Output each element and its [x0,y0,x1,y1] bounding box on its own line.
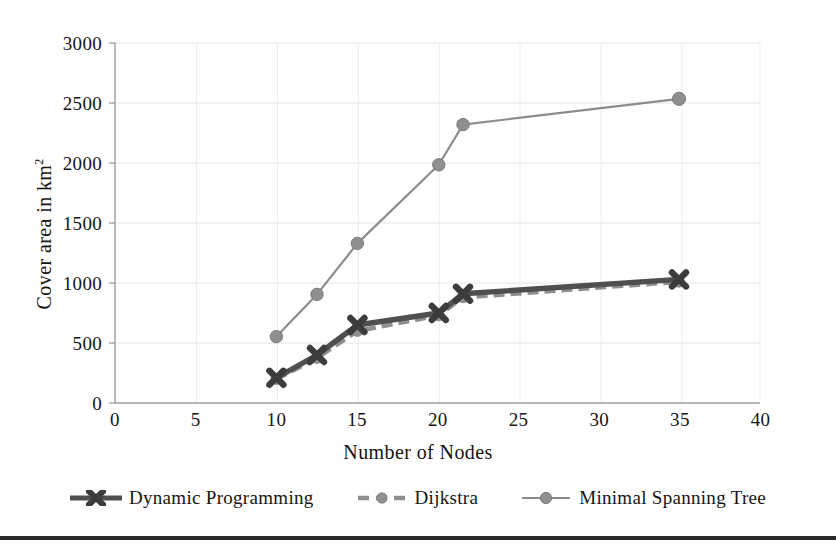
x-tick-label: 40 [731,410,791,429]
x-tick-label: 15 [327,410,387,429]
legend-label: Dijkstra [415,487,479,509]
x-axis-title: Number of Nodes [0,441,836,464]
chart-plot-area [0,0,836,553]
legend-label: Dynamic Programming [129,487,314,509]
x-tick-label: 30 [569,410,629,429]
y-axis-title: Cover area in km2 [32,104,56,364]
legend-label: Minimal Spanning Tree [579,487,766,509]
legend-marker-circle-dashed-icon [356,490,408,506]
x-tick-label: 35 [650,410,710,429]
x-tick-label: 25 [489,410,549,429]
chart-figure: 3000 2500 2000 1500 1000 500 0 0 5 10 15… [0,0,836,553]
y-axis-title-exponent: 2 [32,158,46,164]
x-axis-tick-labels: 0 5 10 15 20 25 30 35 40 [0,410,836,436]
y-tick-marks [109,43,115,403]
y-axis-title-text: Cover area in km [33,165,55,310]
legend-item-dynamic-programming[interactable]: Dynamic Programming [70,487,314,509]
x-tick-label: 0 [85,410,145,429]
legend-marker-x-cross-icon [70,490,122,506]
x-tick-label: 10 [246,410,306,429]
legend-item-dijkstra[interactable]: Dijkstra [356,487,479,509]
legend-item-minimal-spanning-tree[interactable]: Minimal Spanning Tree [520,487,766,509]
series-dynamic-programming [269,272,686,384]
series-minimal-spanning-tree [270,92,685,343]
chart-legend: Dynamic Programming Dijkstra Minimal Spa… [0,487,836,509]
y-tick-label: 3000 [28,34,102,53]
grid-horizontal [115,43,760,343]
x-tick-label: 5 [166,410,226,429]
legend-marker-circle-solid-icon [520,490,572,506]
page-divider-rule [0,536,836,540]
x-tick-label: 20 [408,410,468,429]
